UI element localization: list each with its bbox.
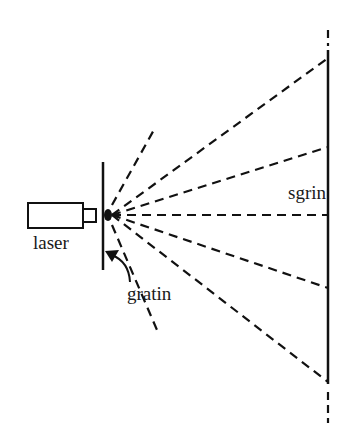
ray-order-plus1 <box>112 147 328 215</box>
diffraction-source-dot <box>104 209 112 221</box>
diffraction-diagram: laser sgrin gratin <box>0 0 349 423</box>
screen-label: sgrin <box>288 182 327 203</box>
grating-label: gratin <box>127 283 172 304</box>
grating-pointer-arrow-icon <box>105 250 130 282</box>
ray-order-minus1 <box>112 215 328 288</box>
laser-icon <box>28 203 96 228</box>
ray-steep-upper <box>112 128 155 205</box>
diffracted-rays <box>112 58 328 382</box>
ray-steep-lower <box>112 225 157 330</box>
laser-label: laser <box>33 232 70 253</box>
